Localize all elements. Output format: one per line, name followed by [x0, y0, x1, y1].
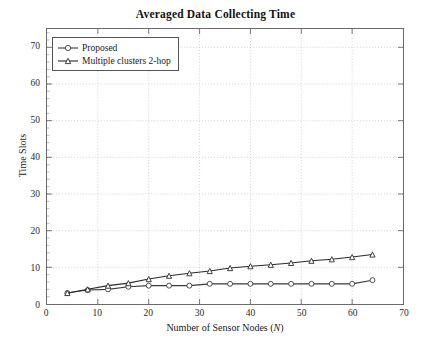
legend-item-1: Proposed	[57, 41, 171, 54]
x-tick-30: 30	[195, 308, 205, 318]
x-tick-70: 70	[399, 308, 409, 318]
x-axis-title: Number of Sensor Nodes (N)	[46, 322, 404, 333]
chart-figure: Averaged Data Collecting Time 0102030405…	[0, 0, 431, 346]
x-axis-title-text: Number of Sensor Nodes (	[166, 322, 273, 333]
y-tick-10: 10	[6, 263, 40, 273]
y-axis-title: Time Slots	[17, 106, 28, 206]
x-tick-40: 40	[246, 308, 256, 318]
x-tick-50: 50	[297, 308, 307, 318]
x-axis-title-tail: )	[280, 322, 283, 333]
y-tick-20: 20	[6, 226, 40, 236]
legend-marker-filled-triangle-icon	[57, 55, 79, 67]
y-tick-70: 70	[6, 41, 40, 51]
legend-label: Proposed	[79, 43, 117, 53]
x-tick-0: 0	[44, 308, 49, 318]
x-tick-20: 20	[144, 308, 154, 318]
legend-marker-open-circle-icon	[57, 42, 79, 54]
legend-label: Multiple clusters 2-hop	[79, 56, 171, 66]
chart-title: Averaged Data Collecting Time	[0, 8, 431, 20]
x-tick-60: 60	[348, 308, 358, 318]
y-tick-60: 60	[6, 78, 40, 88]
chart-legend: ProposedMultiple clusters 2-hop	[52, 37, 179, 71]
x-tick-10: 10	[92, 308, 102, 318]
y-tick-0: 0	[6, 300, 40, 310]
legend-item-2: Multiple clusters 2-hop	[57, 54, 171, 67]
